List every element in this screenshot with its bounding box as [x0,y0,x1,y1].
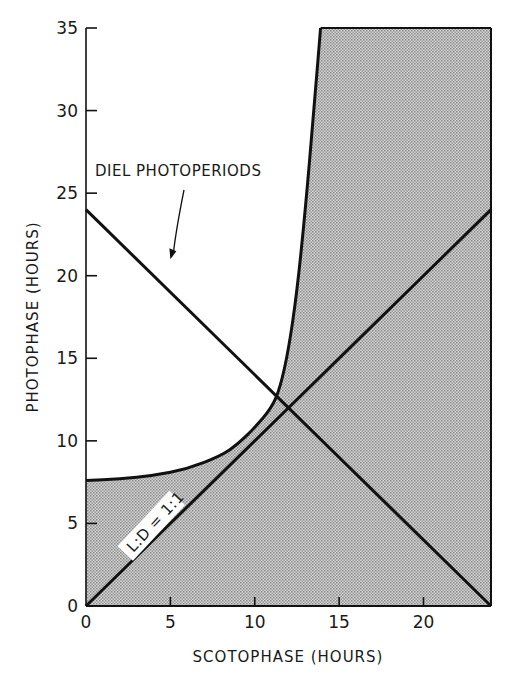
arrowhead-icon [169,248,176,259]
y-tick-label: 20 [56,266,78,286]
chart: 0510152025303505101520 L:D = 1:1 SCOTOPH… [0,0,508,679]
diel-photoperiods-annotation: DIEL PHOTOPERIODS [95,162,261,180]
y-tick-label: 35 [56,18,78,38]
x-tick-label: 20 [413,612,435,632]
y-tick-label: 5 [67,513,78,533]
y-axis-title: PHOTOPHASE (HOURS) [24,221,42,412]
y-tick-label: 25 [56,183,78,203]
y-tick-label: 30 [56,101,78,121]
y-tick-label: 10 [56,431,78,451]
chart-svg: 0510152025303505101520 L:D = 1:1 SCOTOPH… [0,0,508,679]
x-tick-label: 0 [81,612,92,632]
x-tick-label: 5 [165,612,176,632]
annotation-arrow [173,190,184,253]
y-tick-label: 15 [56,348,78,368]
x-tick-label: 15 [328,612,350,632]
x-tick-label: 10 [244,612,266,632]
y-tick-label: 0 [67,596,78,616]
x-axis-title: SCOTOPHASE (HOURS) [193,648,384,666]
